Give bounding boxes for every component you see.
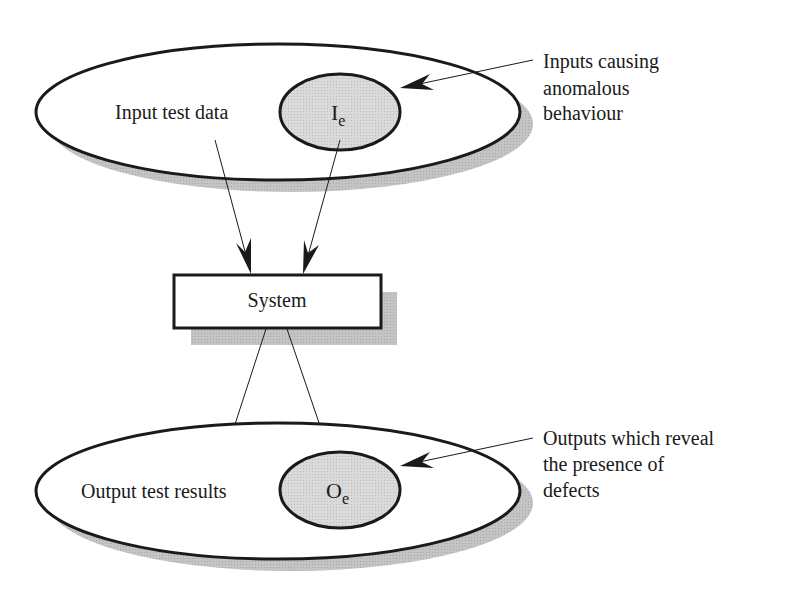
system-label: System [248, 289, 307, 312]
system-box: System [174, 275, 397, 345]
input-test-data-set: Input test data Ie [36, 44, 533, 192]
input-set-label: Input test data [115, 101, 228, 124]
arrowhead-icon [236, 238, 251, 274]
input-callout-line-1: Inputs causing [543, 50, 659, 73]
output-callout-line-3: defects [543, 479, 600, 501]
output-set-label: Output test results [81, 480, 227, 503]
input-callout-line-3: behaviour [543, 102, 623, 124]
output-callout-line-1: Outputs which reveal [543, 427, 715, 450]
output-callout-line-2: the presence of [543, 453, 664, 476]
testing-diagram: Input test data Ie Inputs causing anomal… [0, 0, 789, 592]
output-test-results-set: Output test results Oe [36, 423, 533, 571]
input-callout-line-2: anomalous [543, 77, 630, 99]
input-set-ellipse [36, 44, 520, 180]
